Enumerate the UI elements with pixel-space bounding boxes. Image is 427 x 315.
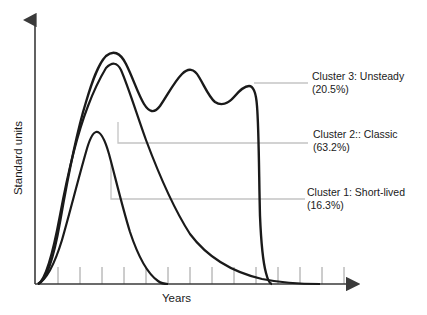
chart-canvas bbox=[0, 0, 427, 315]
legend-label-cluster-1: Cluster 1: Short-lived bbox=[307, 186, 405, 199]
x-axis-label: Years bbox=[162, 292, 191, 304]
legend-label-cluster-2: Cluster 2:: Classic bbox=[313, 128, 398, 141]
axis-lines bbox=[35, 20, 358, 284]
legend-leader-lines bbox=[111, 83, 308, 199]
legend-entry-cluster-1: Cluster 1: Short-lived (16.3%) bbox=[307, 186, 405, 212]
legend-percent-cluster-1: (16.3%) bbox=[307, 199, 405, 212]
chart-figure: Standard units Years Cluster 3: Unsteady… bbox=[0, 0, 427, 315]
legend-entry-cluster-2: Cluster 2:: Classic (63.2%) bbox=[313, 128, 398, 154]
legend-percent-cluster-3: (20.5%) bbox=[312, 83, 404, 96]
series-line-cluster-1 bbox=[38, 132, 168, 284]
x-axis-ticks bbox=[58, 267, 344, 284]
legend-entry-cluster-3: Cluster 3: Unsteady (20.5%) bbox=[312, 70, 404, 96]
y-axis-label: Standard units bbox=[12, 108, 24, 208]
leader-line-cluster-1 bbox=[111, 160, 305, 199]
legend-percent-cluster-2: (63.2%) bbox=[313, 141, 398, 154]
legend-label-cluster-3: Cluster 3: Unsteady bbox=[312, 70, 404, 83]
series-line-cluster-3 bbox=[38, 53, 272, 284]
